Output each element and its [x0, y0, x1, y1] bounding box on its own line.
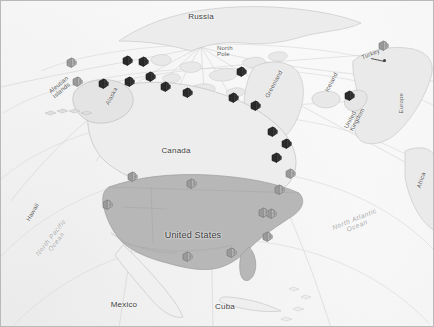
facility-marker[interactable]	[98, 78, 109, 90]
map-label-north-pole: NorthPole	[217, 45, 233, 58]
land-caribbean-islands	[281, 287, 311, 321]
facility-marker[interactable]	[66, 57, 77, 69]
facility-marker[interactable]	[236, 66, 247, 78]
facility-marker[interactable]	[124, 76, 135, 88]
facility-marker[interactable]	[250, 100, 261, 112]
facility-marker[interactable]	[160, 81, 171, 93]
map-label-united-states: United States	[165, 231, 222, 240]
map-label-russia: Russia	[188, 13, 214, 21]
map-label-mexico: Mexico	[111, 301, 138, 309]
facility-marker[interactable]	[72, 76, 83, 88]
facility-marker[interactable]	[182, 87, 193, 99]
facility-marker[interactable]	[228, 92, 239, 104]
facility-marker[interactable]	[102, 199, 113, 211]
facility-marker[interactable]	[122, 55, 133, 67]
facility-marker[interactable]	[262, 231, 273, 243]
facility-marker[interactable]	[145, 71, 156, 83]
facility-marker[interactable]	[281, 138, 292, 150]
facility-marker[interactable]	[182, 251, 193, 263]
facility-marker[interactable]	[258, 207, 269, 219]
facility-marker[interactable]	[267, 126, 278, 138]
facility-marker[interactable]	[378, 40, 389, 52]
land-africa	[405, 148, 433, 231]
land-iceland	[312, 91, 340, 108]
map-label-europe: Europe	[398, 93, 404, 114]
facility-marker[interactable]	[138, 56, 149, 68]
facility-marker[interactable]	[127, 171, 138, 183]
map-label-canada: Canada	[161, 147, 190, 155]
facility-marker[interactable]	[226, 247, 237, 259]
facility-marker[interactable]	[271, 152, 282, 164]
map-screenshot: RussiaNorthPoleAleutianIslandsAlaskaGree…	[0, 0, 434, 327]
turkey-leader-dot	[383, 59, 386, 62]
facility-marker[interactable]	[186, 178, 197, 190]
facility-marker[interactable]	[274, 184, 285, 196]
map-label-cuba: Cuba	[215, 303, 235, 311]
space-backdrop: RussiaNorthPoleAleutianIslandsAlaskaGree…	[1, 1, 433, 326]
facility-marker[interactable]	[285, 168, 296, 180]
facility-marker[interactable]	[344, 90, 355, 102]
